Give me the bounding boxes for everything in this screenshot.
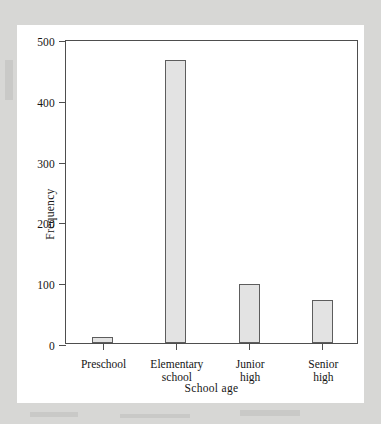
y-axis-title: Frequency: [44, 188, 56, 239]
plot-area: 0100200300400500PreschoolElementaryschoo…: [66, 41, 357, 343]
x-axis-tick-label-line: Junior: [236, 358, 265, 371]
x-axis-tick: Juniorhigh: [249, 343, 250, 350]
x-axis-tick-label-line: school: [150, 371, 203, 384]
y-axis-tick: 500: [59, 41, 66, 42]
y-axis-tick: 400: [59, 102, 66, 103]
bar-senior-high: [312, 300, 333, 343]
x-axis-tick-label-line: Senior: [308, 358, 338, 371]
x-axis-tick-label: Juniorhigh: [236, 358, 265, 384]
y-axis-tick: 300: [59, 163, 66, 164]
x-axis-tick: Preschool: [103, 343, 104, 350]
plot-frame: 0100200300400500PreschoolElementaryschoo…: [65, 40, 358, 344]
y-axis-tick-label: 200: [37, 218, 55, 230]
x-axis-tick-label-line: Elementary: [150, 358, 203, 371]
x-axis-tick-label-line: high: [236, 371, 265, 384]
chart-panel: Frequency School age 0100200300400500Pre…: [17, 25, 364, 403]
x-axis-tick-label-line: Preschool: [81, 358, 126, 371]
y-axis-tick: 200: [59, 223, 66, 224]
y-axis-tick: 100: [59, 284, 66, 285]
y-axis-tick-label: 400: [37, 97, 55, 109]
x-axis-tick: Elementaryschool: [176, 343, 177, 350]
y-axis-tick: 0: [59, 345, 66, 346]
y-axis-tick-label: 500: [37, 36, 55, 48]
x-axis-tick-label: Elementaryschool: [150, 358, 203, 384]
bar-elementary-school: [165, 60, 186, 343]
y-axis-tick-label: 100: [37, 279, 55, 291]
x-axis-tick-label-line: high: [308, 371, 338, 384]
y-axis-tick-label: 300: [37, 158, 55, 170]
figure-root: Frequency School age 0100200300400500Pre…: [0, 0, 381, 424]
bar-junior-high: [239, 284, 260, 343]
x-axis-tick-label: Seniorhigh: [308, 358, 338, 384]
x-axis-tick-label: Preschool: [81, 358, 126, 371]
y-axis-tick-label: 0: [49, 340, 55, 352]
x-axis-tick: Seniorhigh: [322, 343, 323, 350]
